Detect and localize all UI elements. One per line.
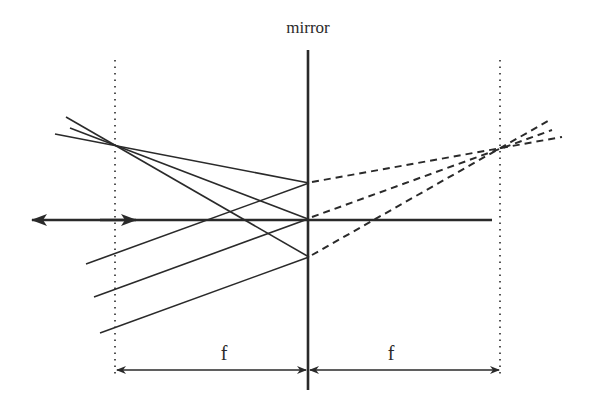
incident-ray-2 <box>70 128 308 219</box>
diagram-canvas: mirror f f <box>0 0 589 411</box>
virtual-extension-2 <box>312 130 552 217</box>
virtual-extension-3 <box>312 121 548 255</box>
reflected-ray-2 <box>94 219 308 297</box>
virtual-extensions <box>312 121 562 255</box>
virtual-extension-1 <box>312 137 562 182</box>
reflected-ray-1 <box>86 183 309 264</box>
focal-length-right-label: f <box>388 342 395 364</box>
ray-diagram: mirror f f <box>0 0 589 411</box>
reflected-rays <box>86 183 309 333</box>
mirror-label: mirror <box>286 18 330 37</box>
incident-ray-3 <box>66 117 309 257</box>
incident-rays <box>55 117 309 257</box>
incident-ray-1 <box>55 134 309 183</box>
reflected-ray-3 <box>100 257 309 333</box>
focal-length-left-label: f <box>221 342 228 364</box>
